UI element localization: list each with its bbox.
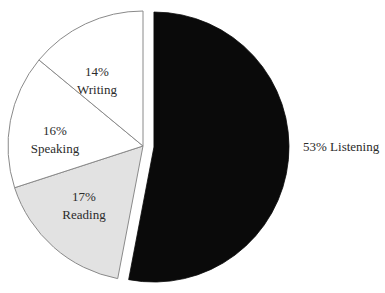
pie-label-reading-name: Reading bbox=[62, 207, 106, 222]
pie-chart-svg: 14% Writing 16% Speaking 17% Reading 53%… bbox=[0, 0, 385, 293]
pie-slice-listening[interactable] bbox=[129, 12, 289, 282]
pie-label-speaking-name: Speaking bbox=[31, 141, 80, 156]
pie-label-listening: 53% Listening bbox=[303, 139, 380, 154]
pie-label-reading-percent: 17% bbox=[72, 189, 96, 204]
pie-label-writing-name: Writing bbox=[77, 82, 117, 97]
pie-chart: 14% Writing 16% Speaking 17% Reading 53%… bbox=[0, 0, 385, 293]
pie-label-speaking-percent: 16% bbox=[43, 123, 67, 138]
pie-label-writing-percent: 14% bbox=[85, 64, 109, 79]
